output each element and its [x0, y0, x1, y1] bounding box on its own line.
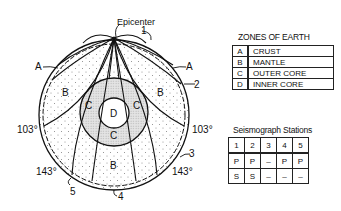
mantle-label-left: B [62, 88, 69, 98]
table-header-row: 1 2 3 4 5 [229, 138, 309, 154]
station-3-marker: 3 [189, 149, 195, 159]
stations-table: 1 2 3 4 5 P P – P P S S – – – [228, 137, 309, 184]
table-cell: P [245, 153, 261, 169]
outer-core-label-bottom: C [110, 131, 117, 141]
zones-table: ACRUST BMANTLE COUTER CORE DINNER CORE [232, 45, 334, 90]
zone-value: OUTER CORE [248, 68, 334, 79]
zone-value: MANTLE [248, 57, 334, 68]
outer-core-label-left: C [85, 101, 92, 111]
zone-key: C [233, 68, 249, 79]
table-cell: – [261, 169, 277, 184]
station-2-marker: 2 [194, 80, 200, 90]
stations-title: Seismograph Stations [233, 125, 312, 135]
station-5-marker: 5 [70, 187, 76, 197]
outer-core-label-right: C [133, 101, 140, 111]
station-header: 2 [245, 138, 261, 154]
table-cell: S [229, 169, 245, 184]
table-row: S S – – – [229, 169, 309, 184]
zone-key: A [233, 46, 249, 57]
station-4-marker: 4 [118, 192, 124, 202]
table-row: BMANTLE [233, 57, 334, 68]
table-cell: – [277, 169, 293, 184]
mantle-label-right: B [157, 88, 164, 98]
table-cell: P [293, 153, 309, 169]
table-row: ACRUST [233, 46, 334, 57]
zone-value: CRUST [248, 46, 334, 57]
station-header: 5 [293, 138, 309, 154]
angle-103-left: 103° [17, 125, 38, 135]
angle-103-right: 103° [192, 125, 213, 135]
zones-title: ZONES OF EARTH [238, 32, 334, 42]
station-header: 4 [277, 138, 293, 154]
zone-key: B [233, 57, 249, 68]
table-cell: S [245, 169, 261, 184]
zones-of-earth-legend: ZONES OF EARTH ACRUST BMANTLE COUTER COR… [232, 32, 334, 90]
angle-143-left: 143° [36, 167, 57, 177]
table-cell: – [261, 153, 277, 169]
mantle-label-bottom: B [110, 161, 117, 171]
table-cell: P [277, 153, 293, 169]
crust-label-right: A [186, 62, 193, 72]
zone-key: D [233, 79, 249, 90]
epicenter-point [113, 37, 116, 40]
table-row: DINNER CORE [233, 79, 334, 90]
seismograph-stations-legend: Seismograph Stations 1 2 3 4 5 P P – P P… [228, 125, 312, 184]
station-1-marker: 1 [141, 26, 147, 36]
station-header: 3 [261, 138, 277, 154]
table-row: P P – P P [229, 153, 309, 169]
crust-label-left: A [35, 62, 42, 72]
zone-value: INNER CORE [248, 79, 334, 90]
epicenter-label: Epicenter [117, 17, 155, 27]
table-cell: P [229, 153, 245, 169]
table-cell: – [293, 169, 309, 184]
station-header: 1 [229, 138, 245, 154]
inner-core-label: D [110, 109, 117, 119]
angle-143-right: 143° [172, 167, 193, 177]
table-row: COUTER CORE [233, 68, 334, 79]
